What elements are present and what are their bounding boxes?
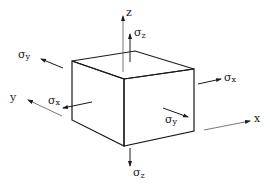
x-axis	[204, 121, 250, 130]
y-axis-label: y	[9, 91, 17, 104]
sigma-y-back-arrow	[41, 59, 63, 68]
sigma-x-left-arrow	[63, 102, 92, 108]
diagram-svg: z σz σy y σx σx σy	[0, 0, 270, 190]
x-axis-label: x	[254, 112, 261, 125]
sigma-x-right-arrow	[198, 79, 221, 84]
sigma-z-bottom-label: σz	[133, 166, 145, 180]
sigma-x-right-label: σx	[224, 71, 237, 84]
cube	[72, 51, 194, 146]
sigma-x-left-label: σx	[48, 94, 61, 107]
sigma-y-back-label: σy	[18, 48, 31, 61]
sigma-y-front-label: σy	[165, 113, 178, 126]
cube-right-face	[124, 69, 194, 146]
sigma-z-top-label: σz	[134, 26, 146, 40]
cube-left-face	[72, 61, 124, 146]
cube-top-face	[72, 51, 194, 79]
stress-element-diagram: z σz σy y σx σx σy	[0, 0, 270, 190]
z-axis-label: z	[126, 6, 132, 19]
